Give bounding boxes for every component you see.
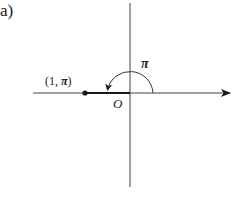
panel-label: a) [0,2,13,19]
point-label-prefix: (1, [45,74,61,88]
point-marker [82,90,87,95]
polar-diagram: a) (1, π) O π [0,0,234,199]
origin-label: O [113,97,122,110]
angle-label: π [141,57,149,71]
point-label-suffix: ) [68,74,72,88]
point-label: (1, π) [45,75,72,87]
